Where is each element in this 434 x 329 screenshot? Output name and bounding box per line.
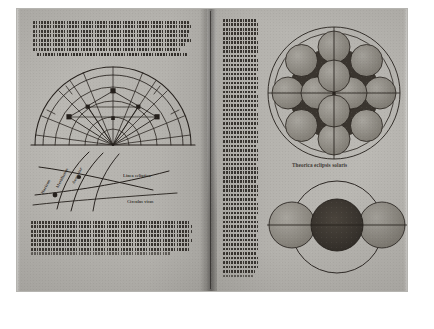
scanned-page-image: Horizon Meridianus Aequator Linea eclipt… [0, 0, 434, 329]
curved-arc-diagram [27, 151, 203, 213]
curve-label-circulus-visus: Circulus visus [127, 199, 154, 204]
left-page-heading [37, 53, 189, 58]
curve-label-ecliptica: Linea ecliptica [123, 173, 151, 178]
left-page-top-text [33, 21, 191, 52]
right-page: Theorica eclipsis solaris [217, 9, 407, 291]
open-book-spread: Horizon Meridianus Aequator Linea eclipt… [17, 9, 407, 291]
eclipse-solar-caption: Theorica eclipsis solaris [292, 162, 347, 168]
semicircle-aspect-diagram [25, 61, 201, 156]
left-page-edge [17, 9, 20, 291]
eclipse-axes [268, 27, 400, 159]
right-page-text-column [223, 19, 259, 279]
lunar-eclipse-diagram [259, 23, 409, 163]
left-page: Horizon Meridianus Aequator Linea eclipt… [17, 9, 207, 291]
solar-eclipse-diagram [265, 175, 409, 279]
left-page-bottom-text [31, 221, 193, 257]
spine-fold-line [210, 11, 211, 289]
